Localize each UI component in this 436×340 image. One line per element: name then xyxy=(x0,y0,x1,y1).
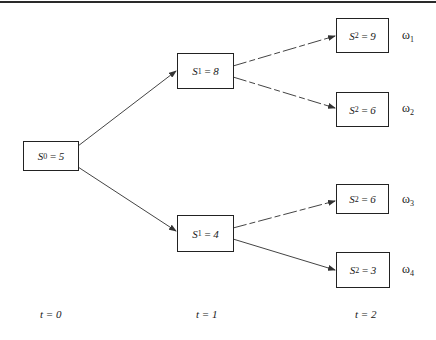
edge-s1up-s2-ud xyxy=(233,77,335,108)
edge-s0-s1-up xyxy=(78,71,176,146)
node-value: 8 xyxy=(213,65,219,77)
node-s0: S0 = 5 xyxy=(23,141,79,171)
outcome-label-1: ω1 xyxy=(402,28,414,44)
node-s1-down: S1 = 4 xyxy=(177,215,234,252)
node-eq: = xyxy=(202,228,214,240)
node-s1-up: S1 = 8 xyxy=(177,53,234,89)
edge-s1dn-s2-dd xyxy=(233,239,335,270)
omega-sub: 1 xyxy=(410,35,414,44)
node-value: 9 xyxy=(370,30,376,42)
outcome-label-3: ω3 xyxy=(402,192,414,208)
node-value: 5 xyxy=(59,150,65,162)
time-label-2: t = 2 xyxy=(355,308,376,320)
edge-s1up-s2-uu xyxy=(233,36,335,66)
outcome-label-2: ω2 xyxy=(402,101,414,117)
omega-symbol: ω xyxy=(402,28,410,42)
omega-symbol: ω xyxy=(402,192,410,206)
node-s2-uu: S2 = 9 xyxy=(336,18,389,53)
omega-sub: 3 xyxy=(410,199,414,208)
edge-s1dn-s2-du xyxy=(233,201,335,228)
outcome-label-4: ω4 xyxy=(402,262,414,278)
time-label-0: t = 0 xyxy=(40,308,61,320)
node-eq: = xyxy=(359,104,371,116)
node-s2-ud: S2 = 6 xyxy=(336,92,389,127)
node-eq: = xyxy=(359,30,371,42)
node-value: 4 xyxy=(213,228,219,240)
edge-s0-s1-down xyxy=(78,167,176,231)
node-eq: = xyxy=(202,65,214,77)
node-value: 6 xyxy=(370,193,376,205)
omega-symbol: ω xyxy=(402,101,410,115)
node-eq: = xyxy=(359,264,371,276)
omega-symbol: ω xyxy=(402,262,410,276)
node-s2-dd: S2 = 3 xyxy=(336,252,390,288)
node-eq: = xyxy=(359,193,371,205)
node-value: 6 xyxy=(370,104,376,116)
node-s2-du: S2 = 6 xyxy=(336,184,389,214)
node-eq: = xyxy=(47,150,59,162)
omega-sub: 2 xyxy=(410,108,414,117)
omega-sub: 4 xyxy=(410,269,414,278)
time-label-1: t = 1 xyxy=(196,308,217,320)
node-value: 3 xyxy=(371,264,377,276)
